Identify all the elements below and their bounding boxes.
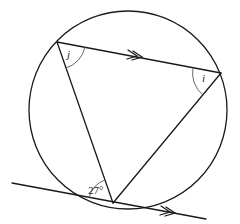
chord-left xyxy=(57,42,113,203)
circle xyxy=(29,11,227,209)
chord-right xyxy=(113,73,221,203)
circle-theorem-diagram: j i 27° xyxy=(0,0,240,224)
angle-label-j: j xyxy=(65,48,70,60)
angle-label-given: 27° xyxy=(88,184,103,196)
tangent-line xyxy=(12,183,206,219)
angle-label-i: i xyxy=(202,72,205,84)
